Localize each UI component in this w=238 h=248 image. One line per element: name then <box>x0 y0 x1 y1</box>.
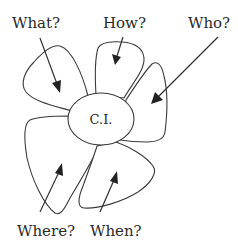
label-where: Where? <box>17 222 75 240</box>
label-how: How? <box>103 14 146 32</box>
center-hub: C.I. <box>68 93 134 145</box>
center-label: C.I. <box>90 112 113 127</box>
label-what: What? <box>12 14 60 32</box>
flower-diagram: C.I. What? How? Who? Where? When? <box>0 0 238 248</box>
label-who: Who? <box>188 14 230 32</box>
label-when: When? <box>90 222 142 240</box>
